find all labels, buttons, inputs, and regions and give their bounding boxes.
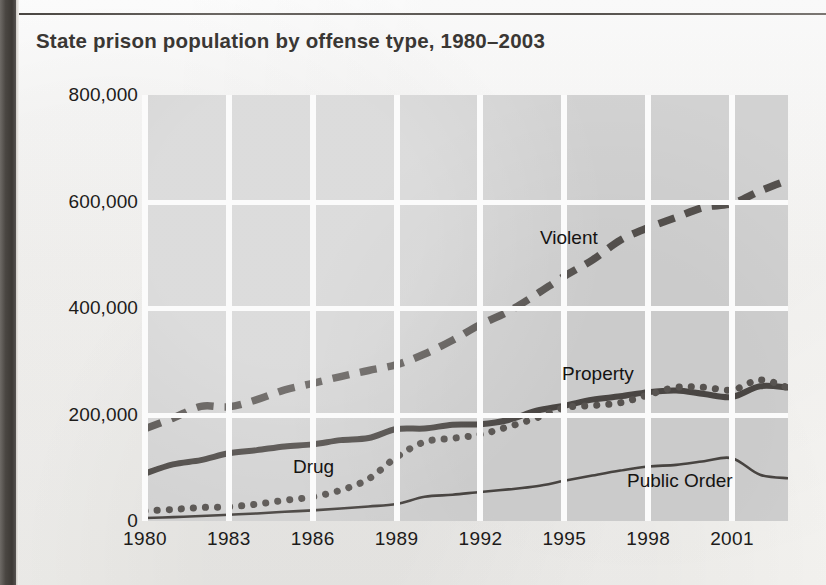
line-chart: 0200,000400,000600,000800,000 1980198319…	[0, 0, 826, 585]
gridline-horizontal-2	[145, 306, 788, 311]
x-tick-label-1992: 1992	[435, 528, 525, 550]
x-tick-label-1995: 1995	[519, 528, 609, 550]
x-tick-label-1980: 1980	[100, 528, 190, 550]
plot-area	[145, 95, 788, 521]
x-tick-label-1998: 1998	[603, 528, 693, 550]
series-line-property	[145, 386, 788, 474]
x-tick-label-1983: 1983	[184, 528, 274, 550]
series-label-public-order: Public Order	[627, 470, 733, 492]
gridline-horizontal-3	[145, 200, 788, 205]
y-tick-label-200000: 200,000	[18, 404, 138, 426]
x-tick-label-1989: 1989	[352, 528, 442, 550]
x-axis-ticks: 19801983198619891992199519982001	[0, 528, 826, 558]
y-tick-label-600000: 600,000	[18, 191, 138, 213]
y-axis-ticks: 0200,000400,000600,000800,000	[8, 0, 138, 585]
series-label-violent: Violent	[540, 227, 598, 249]
series-label-property: Property	[562, 363, 634, 385]
y-tick-label-400000: 400,000	[18, 297, 138, 319]
x-tick-label-1986: 1986	[268, 528, 358, 550]
series-label-drug: Drug	[293, 456, 334, 478]
y-tick-label-800000: 800,000	[18, 84, 138, 106]
gridline-horizontal-1	[145, 413, 788, 418]
x-tick-label-2001: 2001	[687, 528, 777, 550]
